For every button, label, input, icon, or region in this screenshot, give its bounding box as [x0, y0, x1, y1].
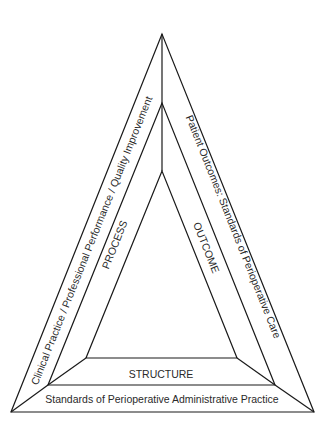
label-outcome: OUTCOME — [191, 220, 222, 274]
triangle-diagram: Clinical Practice / Professional Perform… — [0, 0, 326, 431]
label-outer-left: Clinical Practice / Professional Perform… — [28, 94, 154, 386]
label-structure: STRUCTURE — [129, 368, 194, 380]
label-outer-bottom: Standards of Perioperative Administrativ… — [45, 393, 279, 405]
